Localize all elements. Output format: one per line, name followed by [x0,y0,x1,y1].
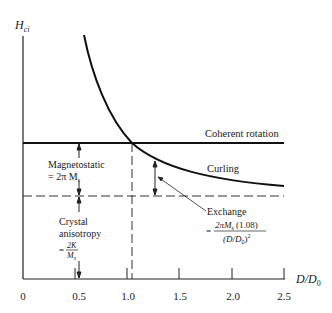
curling-curve [84,35,284,186]
tick-0: 0 [20,290,26,302]
tick-0.5: 0.5 [72,290,86,302]
x-ticks [75,268,284,279]
exchange-arrow [153,161,157,195]
exchange-label: Exchange [207,206,247,217]
svg-text:(D/D0)2: (D/D0)2 [223,233,251,245]
exchange-pointer [158,177,206,211]
svg-text:=: = [59,245,64,255]
y-axis-label: Hci [14,18,29,34]
tick-1.0: 1.0 [121,290,135,302]
crystal-label-1: Crystal [59,216,88,227]
curling-label: Curling [207,163,240,174]
exchange-formula: = 2πMs (1.08) (D/D0)2 [206,220,266,245]
tick-1.5: 1.5 [173,290,187,302]
svg-text:Ms: Ms [66,251,77,261]
magnetostatic-label: Magnetostatic [48,159,105,170]
x-axis-label: D/D0 [295,272,321,288]
tick-2.0: 2.0 [226,290,240,302]
svg-text:2K: 2K [67,241,77,250]
hci-vs-diameter-diagram: 0 0.5 1.0 1.5 2.0 2.5 Hci D/D0 Coherent … [0,0,332,313]
tick-2.5: 2.5 [277,290,291,302]
magnetostatic-formula: = 2π Ms [48,171,81,184]
crystal-label-2: anisotropy [59,228,101,239]
coherent-rotation-label: Coherent rotation [205,128,280,139]
svg-text:2πMs (1.08): 2πMs (1.08) [215,220,258,231]
svg-text:=: = [206,226,211,236]
crystal-formula: = 2K Ms [59,241,78,261]
